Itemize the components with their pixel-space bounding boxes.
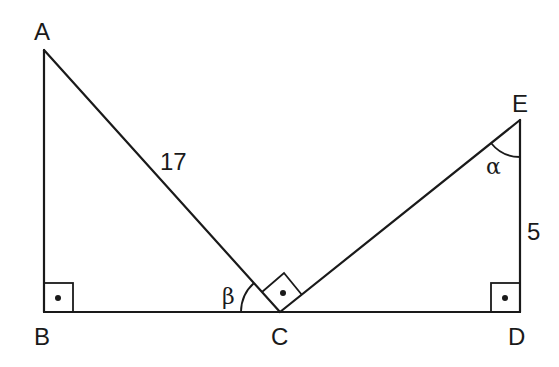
angle-arc-beta: [241, 283, 254, 312]
length-label-ac: 17: [160, 148, 187, 175]
point-label-e: E: [512, 90, 528, 117]
segment-ce: [280, 120, 520, 312]
point-label-c: C: [271, 323, 288, 350]
angle-label-beta: β: [222, 284, 235, 309]
length-label-ed: 5: [527, 218, 540, 245]
segment-ac: [44, 50, 280, 312]
right-angle-marker-b: [44, 283, 73, 312]
right-angle-marker-c: [262, 273, 302, 296]
geometry-diagram: A B C D E 17 5 β α: [0, 0, 559, 367]
point-label-a: A: [34, 18, 50, 45]
point-label-d: D: [508, 323, 525, 350]
right-angle-marker-d: [491, 283, 520, 312]
angle-label-alpha: α: [486, 154, 501, 179]
point-label-b: B: [34, 323, 50, 350]
